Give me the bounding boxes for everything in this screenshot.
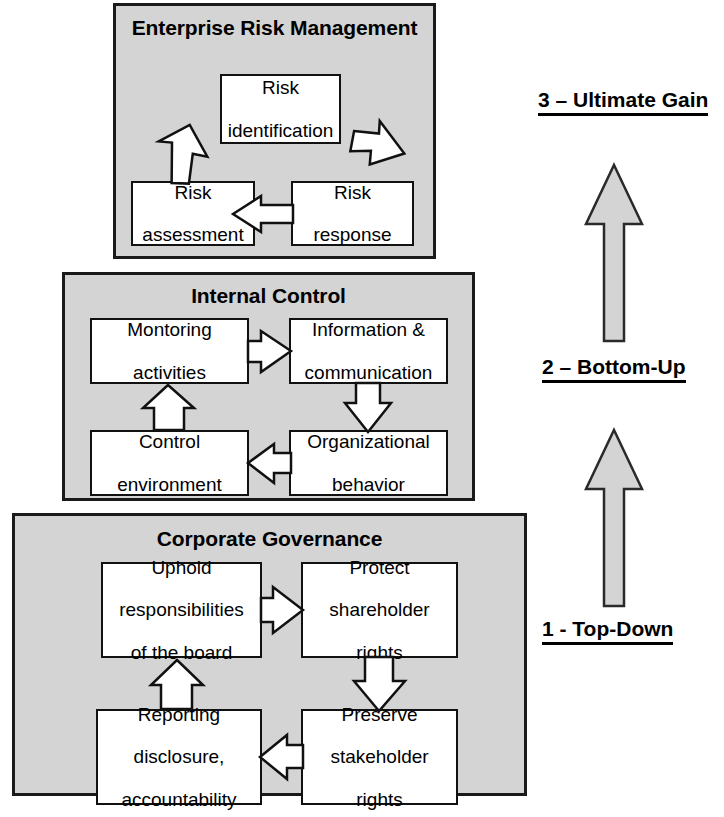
node-organizational-behavior-line-1: Organizational (291, 431, 446, 452)
node-risk-response[interactable]: Risk response (291, 181, 414, 246)
node-monitoring-activities-line-2: activities (92, 362, 247, 383)
node-reporting-disclosure-line-1: Reporting (98, 704, 260, 725)
node-risk-assessment-line-2: assessment (133, 224, 253, 245)
node-preserve-stakeholder-rights[interactable]: Preserve stakeholder rights (301, 709, 458, 805)
node-uphold-responsibilities-line-2: responsibilities (103, 599, 260, 620)
arrow-monitoring-to-information (248, 331, 291, 372)
node-risk-identification-line-2: identification (222, 120, 339, 141)
node-uphold-responsibilities[interactable]: Uphold responsibilities of the board (101, 562, 262, 658)
panel-title-line-2: Management (290, 16, 417, 39)
node-monitoring-activities-line-1: Montoring (92, 319, 247, 340)
node-risk-identification-line-1: Risk (222, 77, 339, 98)
node-monitoring-activities[interactable]: Montoring activities (90, 318, 249, 384)
stage-label-top-down: 1 - Top-Down (542, 617, 673, 645)
arrow-reporting-to-uphold (151, 660, 203, 709)
node-reporting-disclosure[interactable]: Reporting disclosure, accountability (96, 709, 262, 805)
panel-title-internal-control: Internal Control (65, 284, 472, 308)
arrow-uphold-to-protect (261, 587, 303, 633)
node-uphold-responsibilities-line-3: of the board (103, 642, 260, 663)
panel-title-corporate-governance-text: Corporate Governance (157, 527, 383, 550)
panel-internal-control: Internal Control Montoring activities In… (62, 272, 475, 501)
panel-corporate-governance: Corporate Governance Uphold responsibili… (12, 513, 527, 796)
node-preserve-stakeholder-rights-line-3: rights (303, 789, 456, 810)
node-reporting-disclosure-line-2: disclosure, (98, 746, 260, 767)
panel-title-line-1: Enterprise Risk (132, 16, 285, 39)
node-protect-shareholder-rights[interactable]: Protect shareholder rights (301, 562, 458, 658)
node-reporting-disclosure-line-3: accountability (98, 789, 260, 810)
arrow-control-to-monitoring (143, 385, 194, 430)
arrow-information-to-organizational (345, 383, 391, 432)
arrow-preserve-to-reporting (260, 735, 303, 779)
node-control-environment[interactable]: Control environment (90, 430, 249, 496)
progression-arrow-to-bottom-up (583, 427, 645, 609)
node-uphold-responsibilities-line-1: Uphold (103, 557, 260, 578)
node-protect-shareholder-rights-line-3: rights (303, 642, 456, 663)
node-organizational-behavior-line-2: behavior (291, 474, 446, 495)
node-risk-response-line-1: Risk (293, 182, 412, 203)
node-protect-shareholder-rights-line-1: Protect (303, 557, 456, 578)
panel-enterprise-risk-management: Enterprise Risk Management Risk identifi… (113, 3, 436, 259)
node-control-environment-line-2: environment (92, 474, 247, 495)
panel-title-corporate-governance: Corporate Governance (15, 527, 524, 551)
stage-label-bottom-up: 2 – Bottom-Up (542, 355, 686, 383)
node-organizational-behavior[interactable]: Organizational behavior (289, 430, 448, 496)
node-risk-assessment-line-1: Risk (133, 182, 253, 203)
stage-label-ultimate-gain: 3 – Ultimate Gain (538, 88, 708, 116)
node-risk-identification[interactable]: Risk identification (220, 74, 341, 144)
node-risk-response-line-2: response (293, 224, 412, 245)
node-information-communication-line-2: communication (291, 362, 446, 383)
arrow-organizational-to-control (248, 444, 291, 483)
node-control-environment-line-1: Control (92, 431, 247, 452)
node-preserve-stakeholder-rights-line-1: Preserve (303, 704, 456, 725)
panel-title-internal-control-text: Internal Control (191, 284, 346, 307)
node-protect-shareholder-rights-line-2: shareholder (303, 599, 456, 620)
arrow-identification-to-response (345, 113, 412, 174)
diagram-canvas: Enterprise Risk Management Risk identifi… (0, 0, 724, 817)
node-preserve-stakeholder-rights-line-2: stakeholder (303, 746, 456, 767)
node-information-communication[interactable]: Information & communication (289, 318, 448, 384)
progression-arrow-to-ultimate-gain (583, 162, 645, 344)
node-risk-assessment[interactable]: Risk assessment (131, 181, 255, 246)
node-information-communication-line-1: Information & (291, 319, 446, 340)
panel-title-enterprise-risk-management: Enterprise Risk Management (116, 16, 433, 40)
arrow-assessment-to-identification (157, 123, 211, 187)
